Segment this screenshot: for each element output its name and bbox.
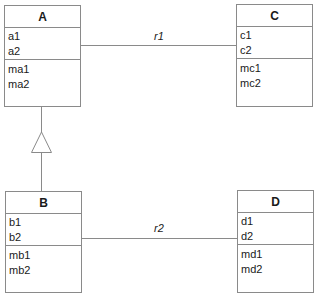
class-box-c[interactable]: C c1 c2 mc1 mc2 [236, 4, 313, 107]
attributes-compartment: b1 b2 [6, 214, 81, 246]
association-line-r2[interactable] [82, 238, 237, 239]
attribute: a2 [8, 44, 80, 59]
attribute: c1 [240, 28, 312, 43]
attributes-compartment: c1 c2 [237, 27, 312, 59]
attribute: b2 [9, 230, 81, 245]
operation: ma1 [8, 62, 80, 77]
attribute: b1 [9, 215, 81, 230]
operations-compartment: ma1 ma2 [5, 60, 80, 107]
class-name: D [238, 191, 313, 213]
attributes-compartment: a1 a2 [5, 28, 80, 60]
class-name: A [5, 6, 80, 28]
operation: mb2 [9, 263, 81, 278]
operation: mb1 [9, 248, 81, 263]
association-line-r1[interactable] [81, 45, 236, 46]
operations-compartment: mc1 mc2 [237, 59, 312, 106]
operation: ma2 [8, 77, 80, 92]
operations-compartment: mb1 mb2 [6, 246, 81, 293]
class-box-d[interactable]: D d1 d2 md1 md2 [237, 190, 314, 293]
operation: md2 [241, 262, 313, 277]
class-name: B [6, 192, 81, 214]
operation: mc1 [240, 61, 312, 76]
attribute: c2 [240, 43, 312, 58]
class-name: C [237, 5, 312, 27]
generalization-line-lower[interactable] [41, 152, 42, 191]
attributes-compartment: d1 d2 [238, 213, 313, 245]
generalization-arrowhead-icon [30, 131, 53, 154]
attribute: d2 [241, 229, 313, 244]
attribute: a1 [8, 29, 80, 44]
association-label-r1: r1 [154, 30, 164, 42]
attribute: d1 [241, 214, 313, 229]
operations-compartment: md1 md2 [238, 245, 313, 292]
operation: md1 [241, 247, 313, 262]
generalization-line-upper[interactable] [41, 107, 42, 133]
operation: mc2 [240, 76, 312, 91]
association-label-r2: r2 [154, 222, 164, 234]
class-box-b[interactable]: B b1 b2 mb1 mb2 [5, 191, 82, 293]
class-box-a[interactable]: A a1 a2 ma1 ma2 [4, 5, 81, 107]
